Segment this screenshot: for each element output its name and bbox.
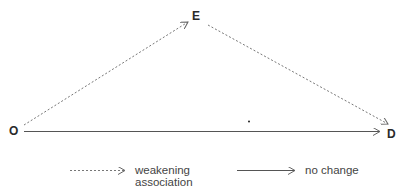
edge-o-to-e: [24, 22, 188, 125]
node-e: E: [192, 10, 200, 22]
node-d: D: [387, 128, 396, 140]
edge-e-to-d: [208, 25, 388, 124]
node-o: O: [9, 125, 18, 137]
legend-dashed-label-line1: weakening: [135, 164, 190, 176]
dot-mark: [248, 121, 250, 123]
legend-solid-label: no change: [305, 164, 359, 176]
legend-dashed-label-line2: association: [135, 176, 193, 188]
